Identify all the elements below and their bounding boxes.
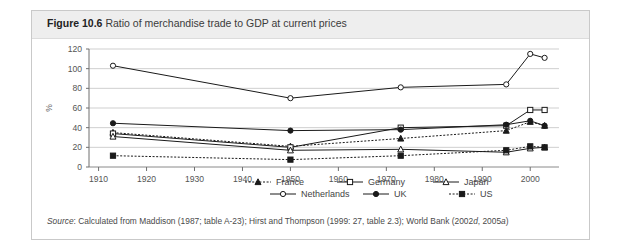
series-netherlands: [110, 51, 547, 100]
source-note: Source: Calculated from Maddison (1987; …: [47, 216, 509, 226]
svg-text:%: %: [44, 104, 54, 112]
svg-text:France: France: [276, 177, 304, 187]
svg-text:Germany: Germany: [368, 177, 406, 187]
legend-item-france: France: [245, 177, 304, 187]
svg-text:40: 40: [72, 123, 82, 133]
legend-item-uk: UK: [363, 189, 407, 199]
figure-caption-text: Ratio of merchandise trade to GDP at cur…: [105, 17, 346, 29]
svg-text:1920: 1920: [137, 174, 156, 184]
svg-text:20: 20: [72, 142, 82, 152]
series-france: [110, 119, 548, 149]
chart-series-layer: [110, 51, 548, 162]
svg-text:1930: 1930: [185, 174, 204, 184]
svg-text:120: 120: [68, 44, 83, 54]
legend-item-netherlands: Netherlands: [270, 189, 350, 199]
svg-text:0: 0: [77, 162, 82, 172]
legend-item-us: US: [449, 189, 493, 199]
source-body: : Calculated from Maddison (1987; table …: [74, 216, 474, 226]
y-axis-tick-labels: 020406080100120: [68, 44, 83, 172]
svg-text:60: 60: [72, 103, 82, 113]
figure-number: Figure 10.6: [47, 17, 102, 29]
figure-card: Figure 10.6 Ratio of merchandise trade t…: [31, 10, 590, 240]
svg-text:UK: UK: [394, 189, 407, 199]
figure-caption: Figure 10.6 Ratio of merchandise trade t…: [47, 17, 347, 29]
svg-text:100: 100: [68, 64, 83, 74]
source-body-end: ): [506, 216, 509, 226]
chart-legend: FranceGermanyJapanNetherlandsUKUS: [245, 177, 493, 199]
svg-text:80: 80: [72, 83, 82, 93]
source-label: Source: [47, 216, 74, 226]
line-chart-svg: 020406080100120 191019201930194019501960…: [32, 39, 591, 207]
svg-text:Netherlands: Netherlands: [301, 189, 350, 199]
y-axis-label: %: [44, 104, 54, 112]
series-us: [110, 144, 547, 162]
svg-text:Japan: Japan: [464, 177, 489, 187]
source-body-mid: , 2005: [478, 216, 501, 226]
svg-text:1910: 1910: [89, 174, 108, 184]
chart-gridlines: [89, 49, 559, 167]
chart-plot-area: 020406080100120 191019201930194019501960…: [32, 39, 589, 207]
series-uk: [110, 118, 547, 133]
svg-text:2000: 2000: [521, 174, 540, 184]
svg-text:US: US: [480, 189, 493, 199]
